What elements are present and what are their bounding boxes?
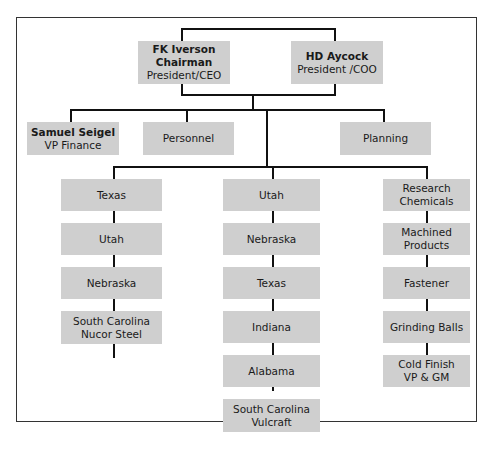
unit-box: Nebraska [223,223,320,255]
exec-box-iverson: FK Iverson Chairman President/CEO [138,41,230,84]
unit-box: South CarolinaNucor Steel [61,311,162,344]
unit-label: Chemicals [399,195,453,208]
unit-label: Vulcraft [251,416,291,429]
unit-label: Nebraska [87,277,137,290]
exec-name: HD Aycock [306,50,368,63]
unit-box: Texas [61,179,162,211]
unit-label: Alabama [248,365,294,378]
unit-box: Texas [223,267,320,299]
connector [383,109,385,122]
connector [186,109,188,122]
staff-box-planning: Planning [340,122,431,155]
unit-label: Utah [99,233,124,246]
connector-main-stem [266,109,268,168]
unit-label: South Carolina [233,403,310,416]
unit-label: Fastener [404,277,449,290]
exec-name: FK Iverson [153,43,216,56]
unit-box: ResearchChemicals [383,179,470,211]
exec-title: President/CEO [147,69,222,82]
unit-box: Fastener [383,267,470,299]
unit-box: Grinding Balls [383,311,470,343]
unit-label: Research [402,182,450,195]
unit-label: Cold Finish [398,358,455,371]
unit-label: Grinding Balls [390,321,463,334]
unit-box: South CarolinaVulcraft [223,399,320,432]
unit-label: Nebraska [247,233,297,246]
connector-divisions [113,166,428,168]
unit-label: Utah [259,189,284,202]
staff-box-finance: Samuel Seigel VP Finance [27,122,119,155]
unit-box: MachinedProducts [383,223,470,255]
connector [426,166,428,179]
staff-label: Planning [363,132,408,145]
unit-box: Utah [223,179,320,211]
connector [334,28,336,41]
connector-exec-top [181,28,336,30]
unit-box: Cold FinishVP & GM [383,355,470,387]
unit-label: Products [404,239,449,252]
unit-label: Nucor Steel [81,328,142,341]
unit-label: Texas [97,189,126,202]
unit-box: Alabama [223,355,320,387]
unit-label: Indiana [252,321,291,334]
exec-title: Chairman [156,56,213,69]
unit-box: Utah [61,223,162,255]
staff-label: Personnel [163,132,214,145]
unit-label: Texas [257,277,286,290]
connector [113,166,115,179]
connector-staff [70,109,385,111]
connector [181,28,183,41]
unit-label: Machined [401,226,452,239]
unit-label: South Carolina [73,315,150,328]
staff-name: Samuel Seigel [31,126,115,139]
unit-label: VP & GM [404,371,450,384]
connector [272,166,274,179]
connector [70,109,72,122]
staff-box-personnel: Personnel [143,122,234,155]
connector-exec-bottom [181,94,336,96]
staff-title: VP Finance [44,139,101,152]
unit-box: Indiana [223,311,320,343]
unit-box: Nebraska [61,267,162,299]
exec-box-aycock: HD Aycock President /COO [291,41,383,84]
exec-title: President /COO [297,63,377,76]
